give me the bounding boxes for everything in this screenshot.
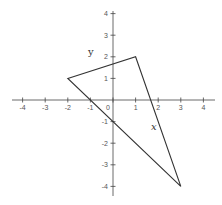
x-tick-label: 4: [201, 104, 205, 111]
x-tick-label: 3: [179, 104, 183, 111]
x-tick-label: 1: [134, 104, 138, 111]
coordinate-plane: -4-3-2-1012344321-1-2-3-4 y x: [0, 0, 222, 205]
x-tick-label: -1: [87, 104, 93, 111]
y-tick-label: -3: [102, 161, 108, 168]
x-tick-label: -2: [65, 104, 71, 111]
y-tick-label: -4: [102, 183, 108, 190]
x-tick-label: 2: [156, 104, 160, 111]
y-tick-label: 2: [104, 53, 108, 60]
x-axis-label: x: [151, 121, 157, 132]
triangle-shape: [68, 57, 181, 187]
y-tick-label: -2: [102, 140, 108, 147]
x-tick-label: -3: [42, 104, 48, 111]
x-tick-label: -4: [19, 104, 25, 111]
x-tick-label: 0: [106, 104, 110, 111]
y-tick-label: 1: [104, 75, 108, 82]
y-tick-label: 3: [104, 32, 108, 39]
y-tick-label: 4: [104, 10, 108, 17]
y-tick-label: -1: [102, 118, 108, 125]
y-axis-label: y: [87, 46, 94, 57]
